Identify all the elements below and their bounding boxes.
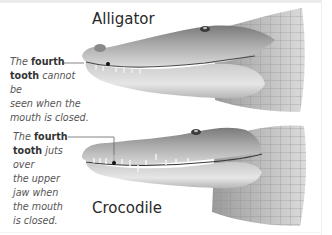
crocodile-note-line-5: the mouth	[13, 200, 83, 214]
note-emphasis: tooth	[13, 145, 42, 156]
crocodile-note-line-4: jaw when	[13, 186, 83, 200]
alligator-note-line-4: mouth is closed.	[10, 111, 90, 125]
note-emphasis: fourth	[31, 56, 65, 67]
crocodile-note-line-6: is closed.	[13, 214, 83, 228]
crocodile-note-line-1: The fourth	[13, 130, 83, 144]
crocodile-note-line-3: the upper	[13, 172, 83, 186]
alligator-note-line-1: The fourth	[10, 55, 90, 69]
note-text: The	[10, 56, 28, 67]
note-emphasis: fourth	[34, 131, 68, 142]
crocodile-title: Crocodile	[92, 199, 162, 217]
crocodile-note: The fourth tooth juts over the upper jaw…	[13, 130, 83, 228]
note-text: The	[13, 131, 31, 142]
note-emphasis: tooth	[10, 70, 39, 81]
alligator-note-line-3: seen when the	[10, 97, 90, 111]
crocodile-note-line-2: tooth juts over	[13, 144, 83, 172]
alligator-note-line-2: tooth cannot be	[10, 69, 90, 97]
alligator-title: Alligator	[92, 10, 155, 28]
alligator-note: The fourth tooth cannot be seen when the…	[10, 55, 90, 125]
